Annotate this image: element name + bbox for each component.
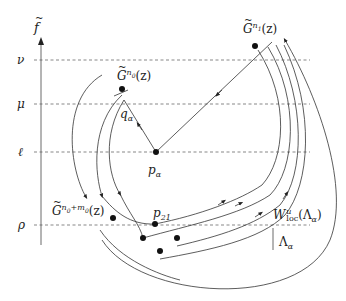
label-g-n0: Gn0(z) [117,69,151,82]
label-g-n1-arg: (z) [262,22,278,36]
diagram-canvas [0,0,346,301]
label-p-alpha: pα [148,164,161,179]
level-label-mu: μ [17,98,25,110]
level-label-ell: ℓ [18,146,23,158]
fan-arc-1 [155,50,281,224]
arrow-palpha-qalpha [138,124,142,130]
line-gn1-to-palpha [156,42,272,152]
point-g-n0m0 [110,215,116,221]
fan-arc-3-arrow [255,213,261,217]
label-p-21-sub: 21 [161,213,171,222]
label-lambda-alpha-base: Λ [279,235,288,249]
label-g-n1-base: G [243,23,253,35]
label-p-alpha-sub: α [156,170,161,179]
curve-bottom-left [100,230,180,280]
label-q-alpha-sub: α [128,114,133,123]
label-g-n0-arg: (z) [136,69,152,83]
f-axis-arrowhead-icon [38,37,44,45]
fan-arc-2-arrow [235,203,241,206]
label-p-alpha-base: p [148,163,156,177]
label-g-n0m0-base: G [52,205,62,217]
point-lower-1 [140,235,146,241]
label-g-n0m0-arg: (z) [89,204,105,218]
label-p-21-base: p [153,206,161,220]
label-w-loc-argclose: ) [317,208,322,222]
label-g-n0m0-supplus: +m [71,203,85,212]
level-label-nu: ν [17,54,24,66]
label-q-alpha: qα [120,108,133,123]
label-lambda-alpha: Λα [279,236,293,251]
label-w-loc-sub: loc [286,215,298,222]
label-g-n1: Gn1(z) [243,22,277,35]
level-label-rho: ρ [18,219,25,231]
axis-label-f-base: f [34,21,39,34]
label-w-loc-base: W [273,208,285,222]
arrow-gn1-palpha [217,90,222,95]
axis-label-f: f [34,21,39,34]
point-lower-2 [174,235,180,241]
label-q-alpha-base: q [120,107,128,121]
label-g-n0m0: Gn0+m0(z) [52,204,104,217]
point-lower-3 [157,248,163,254]
label-w-loc-arg: (Λ [298,208,311,222]
point-p-alpha [153,149,159,155]
label-p-21: p21 [153,207,171,222]
point-g-n1 [252,43,258,49]
label-g-n0-base: G [117,70,127,82]
label-lambda-alpha-sub: α [288,242,293,251]
label-w-loc: Wuloc(Λα) [273,208,322,224]
point-g-n0 [119,86,125,92]
